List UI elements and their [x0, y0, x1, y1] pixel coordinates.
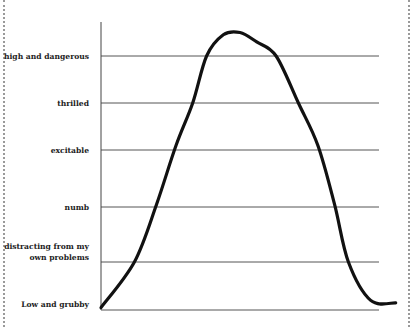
y-tick-label: numb: [65, 203, 89, 212]
y-tick-labels: Low and grubbydistracting from myown pro…: [4, 52, 90, 310]
y-tick-label: high and dangerous: [4, 52, 89, 61]
series-line-mood: [101, 32, 396, 308]
y-tick-label: distracting from my: [4, 242, 89, 251]
series-layer: [101, 32, 396, 308]
y-tick-label: own problems: [30, 253, 89, 262]
mood-chart: Low and grubbydistracting from myown pro…: [0, 0, 418, 327]
y-tick-label: excitable: [51, 146, 89, 155]
y-tick-label: thrilled: [57, 99, 90, 108]
grid-lines: [101, 56, 379, 310]
y-tick-label: Low and grubby: [21, 300, 89, 309]
